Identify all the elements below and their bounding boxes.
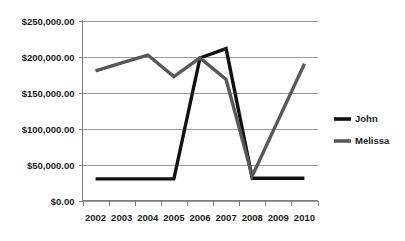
x-axis-tick-label: 2005 <box>163 212 185 223</box>
y-axis-tick-label: $0.00 <box>51 196 75 207</box>
y-axis-tick-label: $250,000.00 <box>22 16 75 27</box>
y-axis-tick-label: $150,000.00 <box>22 88 75 99</box>
y-axis-tick-label: $50,000.00 <box>27 160 75 171</box>
chart-canvas: $0.00$50,000.00$100,000.00$150,000.00$20… <box>0 0 405 241</box>
line-chart: $0.00$50,000.00$100,000.00$150,000.00$20… <box>0 0 405 241</box>
x-axis-tick-label: 2008 <box>242 212 263 223</box>
legend-label-melissa: Melissa <box>355 135 390 146</box>
x-axis-labels-group: 200220032004200520062007200820092010 <box>85 212 315 223</box>
x-axis-tick-label: 2003 <box>111 212 132 223</box>
x-axis-tick-label: 2009 <box>268 212 289 223</box>
x-axis-tick-label: 2006 <box>189 212 210 223</box>
y-axis-tick-label: $200,000.00 <box>22 52 75 63</box>
x-axis-tick-label: 2004 <box>137 212 159 223</box>
x-axis-tick-label: 2010 <box>294 212 315 223</box>
x-axis-tick-label: 2007 <box>216 212 237 223</box>
y-axis-tick-label: $100,000.00 <box>22 124 75 135</box>
legend-label-john: John <box>355 113 378 124</box>
x-axis-tick-label: 2002 <box>85 212 106 223</box>
